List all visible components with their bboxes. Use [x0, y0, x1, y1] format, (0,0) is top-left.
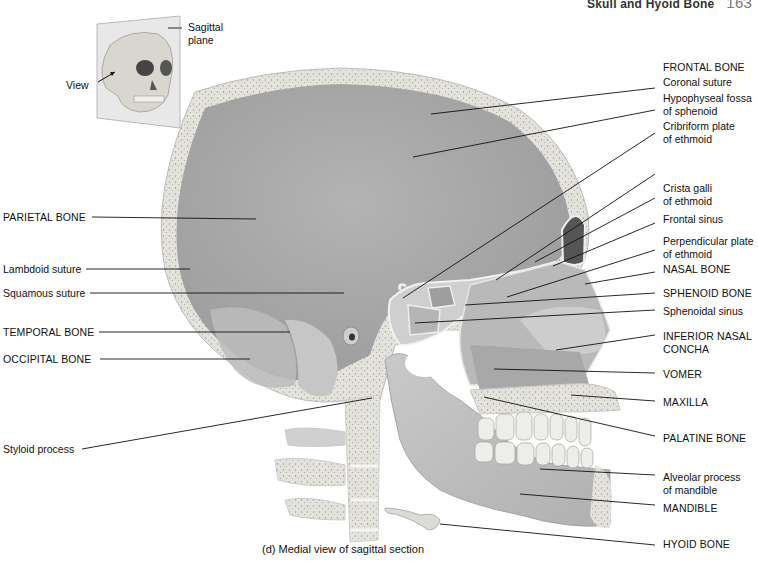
- label-frontal-bone: FRONTAL BONE: [663, 61, 745, 74]
- label-sphenoid-bone: SPHENOID BONE: [663, 287, 752, 300]
- label-parietal-bone: PARIETAL BONE: [3, 211, 86, 224]
- skull-sagittal-illustration: [0, 0, 758, 561]
- label-frontal-sinus: Frontal sinus: [663, 213, 723, 226]
- label-maxilla: MAXILLA: [663, 396, 708, 409]
- cervical-spine: [275, 395, 380, 542]
- label-view: View: [66, 79, 89, 92]
- label-line: plane: [188, 34, 223, 47]
- label-hypophyseal-fossa: Hypophyseal fossa of sphenoid: [663, 92, 752, 117]
- label-perpendicular-plate: Perpendicular plate of ethmoid: [663, 235, 753, 260]
- label-coronal-suture: Coronal suture: [663, 76, 732, 89]
- label-squamous-suture: Squamous suture: [3, 287, 85, 300]
- label-line: Alveolar process: [663, 471, 741, 484]
- label-cribriform-plate: Cribriform plate of ethmoid: [663, 120, 735, 145]
- label-occipital-bone: OCCIPITAL BONE: [3, 353, 91, 366]
- label-line: of ethmoid: [663, 248, 753, 261]
- label-line: Sagittal: [188, 21, 223, 34]
- label-inferior-nasal-concha: INFERIOR NASAL CONCHA: [663, 330, 752, 355]
- label-palatine-bone: PALATINE BONE: [663, 432, 746, 445]
- label-sphenoidal-sinus: Sphenoidal sinus: [663, 305, 743, 318]
- label-lambdoid-suture: Lambdoid suture: [3, 263, 81, 276]
- label-nasal-bone: NASAL BONE: [663, 263, 731, 276]
- label-line: of ethmoid: [663, 133, 735, 146]
- figure-caption: (d) Medial view of sagittal section: [262, 543, 424, 555]
- label-line: of sphenoid: [663, 105, 752, 118]
- label-styloid-process: Styloid process: [3, 443, 74, 456]
- inset-skull: [97, 16, 182, 128]
- label-mandible: MANDIBLE: [663, 502, 717, 515]
- label-temporal-bone: TEMPORAL BONE: [3, 326, 94, 339]
- label-line: CONCHA: [663, 343, 752, 356]
- label-sagittal-plane: Sagittal plane: [188, 21, 223, 47]
- label-crista-galli: Crista galli of ethmoid: [663, 182, 712, 207]
- label-alveolar-process: Alveolar process of mandible: [663, 471, 741, 496]
- label-line: Hypophyseal fossa: [663, 92, 752, 105]
- label-line: INFERIOR NASAL: [663, 330, 752, 343]
- label-line: Perpendicular plate: [663, 235, 753, 248]
- label-vomer: VOMER: [663, 368, 702, 381]
- label-line: Cribriform plate: [663, 120, 735, 133]
- hyoid-shape: [385, 508, 440, 530]
- label-line: of ethmoid: [663, 195, 712, 208]
- label-hyoid-bone: HYOID BONE: [663, 538, 730, 551]
- label-line: of mandible: [663, 484, 741, 497]
- label-line: Crista galli: [663, 182, 712, 195]
